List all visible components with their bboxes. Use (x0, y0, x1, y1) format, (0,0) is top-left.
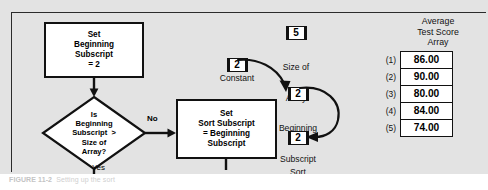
decision-line-2: Beginning (75, 119, 112, 128)
process-sort-line-4: Subscript (198, 139, 254, 149)
decision-line-4: Size of (82, 138, 106, 147)
array-index-5: (5) (378, 119, 401, 136)
array-value-2: 90.00 (401, 68, 453, 85)
figure-root: Set Beginning Subscript = 2 Is Beginning… (0, 0, 488, 190)
array-table: (1) 86.00 (2) 90.00 (3) 80.00 (4) 84.00 (378, 51, 453, 137)
figure-panel: Set Beginning Subscript = 2 Is Beginning… (0, 0, 488, 174)
table-row: (3) 80.00 (378, 85, 453, 102)
array-index-4: (4) (378, 102, 401, 119)
array-value-5: 74.00 (401, 119, 453, 136)
flowchart-process-set-beginning-subscript: Set Beginning Subscript = 2 (44, 22, 144, 78)
figure-caption-text: Setting up the sort (56, 176, 115, 183)
array-index-1: (1) (378, 51, 401, 68)
process-start-line-4: = 2 (74, 60, 114, 70)
variable-sort-subscript: 2 Sort Subscript (266, 127, 330, 174)
array-index-3: (3) (378, 85, 401, 102)
decision-line-5: Array? (82, 147, 106, 156)
array-value-4: 84.00 (401, 102, 453, 119)
process-start-line-1: Set (74, 30, 114, 40)
sort-subscript-label-line-1: Sort (266, 167, 330, 174)
array-title: Average Test Score Array (396, 16, 480, 48)
figure-caption: FIGURE 11-2 Setting up the sort (9, 176, 115, 183)
process-start-line-3: Subscript (74, 50, 114, 60)
figure-caption-label: FIGURE 11-2 (9, 176, 56, 183)
decision-line-3: Subscript > (72, 128, 116, 137)
array-value-3: 80.00 (401, 85, 453, 102)
flowchart-process-set-sort-subscript: Set Sort Subscript = Beginning Subscript (176, 99, 277, 159)
array-index-2: (2) (378, 68, 401, 85)
process-sort-line-2: Sort Subscript (198, 119, 254, 129)
average-test-score-array: Average Test Score Array (1) 86.00 (2) 9… (378, 16, 480, 137)
variable-sort-subscript-label: Sort Subscript (266, 146, 330, 174)
flowchart-decision-beginning-gt-size: Is Beginning Subscript > Size of Array? (41, 95, 147, 171)
connector-sort-process-stub (221, 158, 231, 171)
table-row: (1) 86.00 (378, 51, 453, 68)
decision-text: Is Beginning Subscript > Size of Array? (41, 95, 147, 171)
branch-label-yes: Yes (92, 163, 105, 172)
table-row: (5) 74.00 (378, 119, 453, 136)
process-sort-line-3: = Beginning (198, 129, 254, 139)
variable-sort-subscript-value: 2 (288, 131, 309, 145)
array-value-1: 86.00 (401, 51, 453, 68)
branch-label-no: No (147, 114, 158, 123)
table-row: (4) 84.00 (378, 102, 453, 119)
table-row: (2) 90.00 (378, 68, 453, 85)
process-sort-line-1: Set (198, 109, 254, 119)
array-title-line-3: Array (396, 37, 480, 48)
decision-line-1: Is (91, 110, 97, 119)
variable-size-of-array-value: 5 (286, 26, 307, 40)
process-start-line-2: Beginning (74, 40, 114, 50)
array-title-line-1: Average (396, 16, 480, 27)
connector-no-branch (145, 126, 177, 140)
array-title-line-2: Test Score (396, 27, 480, 38)
